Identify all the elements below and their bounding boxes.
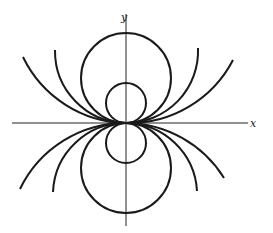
circle-family-diagram: x y [0, 0, 273, 233]
y-axis-label: y [120, 11, 128, 24]
arc-lower-r72 [53, 123, 197, 192]
arc-lower-r117 [20, 123, 224, 189]
x-axis-label: x [250, 117, 257, 130]
arc-upper-r117 [23, 57, 233, 123]
